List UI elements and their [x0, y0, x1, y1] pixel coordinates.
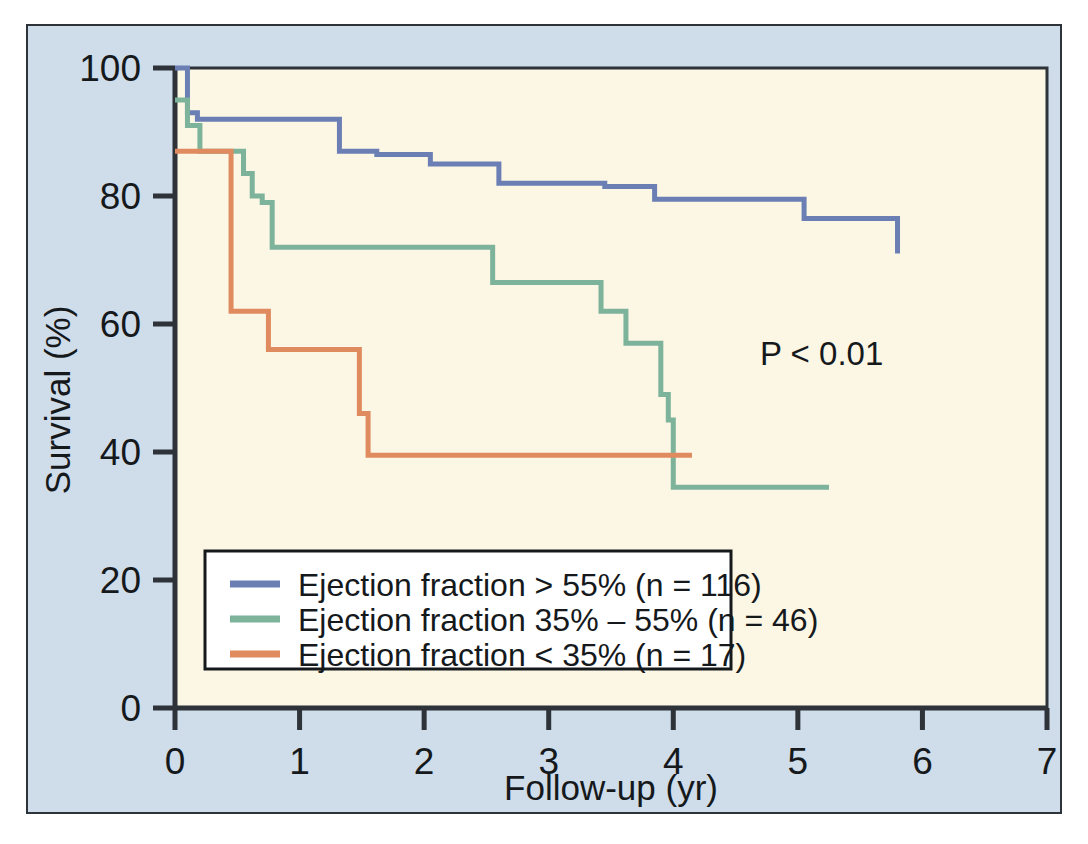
y-tick-label: 60 [100, 304, 141, 345]
x-tick-label: 2 [414, 741, 435, 782]
y-tick-label: 20 [100, 560, 141, 601]
legend-label-1: Ejection fraction 35% – 55% (n = 46) [298, 602, 818, 638]
survival-chart: 01234567 020406080100 Follow-up (yr) Sur… [0, 0, 1088, 844]
x-tick-label: 6 [912, 741, 933, 782]
y-axis-tick-labels: 020406080100 [79, 48, 141, 729]
y-axis-title: Survival (%) [38, 306, 77, 495]
y-tick-label: 100 [79, 48, 141, 89]
legend-entries: Ejection fraction > 55% (n = 116)Ejectio… [230, 567, 818, 673]
y-tick-label: 80 [100, 176, 141, 217]
x-tick-label: 5 [788, 741, 809, 782]
p-value-annotation: P < 0.01 [760, 335, 883, 372]
figure-container: 01234567 020406080100 Follow-up (yr) Sur… [0, 0, 1088, 844]
x-tick-label: 0 [165, 741, 186, 782]
y-tick-label: 0 [120, 688, 141, 729]
x-tick-label: 1 [289, 741, 310, 782]
chart-legend: Ejection fraction > 55% (n = 116)Ejectio… [205, 551, 818, 673]
legend-label-0: Ejection fraction > 55% (n = 116) [298, 567, 762, 603]
legend-label-2: Ejection fraction < 35% (n = 17) [298, 637, 746, 673]
x-tick-label: 7 [1037, 741, 1058, 782]
y-tick-label: 40 [100, 432, 141, 473]
x-axis-title: Follow-up (yr) [504, 768, 718, 807]
